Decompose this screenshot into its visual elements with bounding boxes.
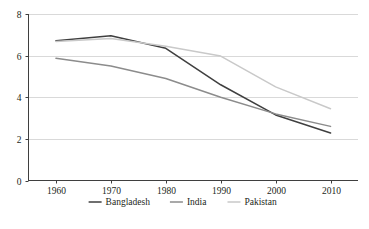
- y-tick-label: 0: [17, 177, 22, 187]
- y-axis-tick-labels: 02468: [17, 10, 22, 187]
- x-tick-label: 2010: [322, 186, 341, 196]
- series-lines: [56, 36, 331, 133]
- legend-label-india: India: [187, 197, 207, 207]
- y-tick-label: 6: [17, 52, 22, 62]
- x-tick-label: 1990: [212, 186, 231, 196]
- y-tick-label: 4: [17, 93, 22, 103]
- y-tick-label: 8: [17, 10, 22, 20]
- legend-label-bangladesh: Bangladesh: [106, 197, 151, 207]
- line-chart: 02468 196019701980199020002010 Banglades…: [0, 0, 369, 229]
- x-tick-label: 1970: [102, 186, 121, 196]
- series-line-pakistan: [56, 39, 331, 109]
- chart-legend: BangladeshIndiaPakistan: [89, 197, 277, 207]
- chart-container: 02468 196019701980199020002010 Banglades…: [0, 0, 369, 229]
- x-axis-tick-labels: 196019701980199020002010: [47, 186, 341, 196]
- legend-label-pakistan: Pakistan: [244, 197, 276, 207]
- y-tick-label: 2: [17, 135, 22, 145]
- x-tick-label: 2000: [267, 186, 286, 196]
- x-tick-label: 1960: [47, 186, 66, 196]
- x-tick-label: 1980: [157, 186, 176, 196]
